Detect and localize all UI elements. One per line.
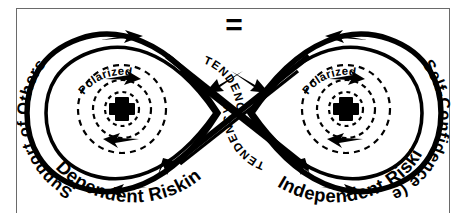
figure-frame: Support of Others Self-Confidence (ego) … [16, 8, 450, 213]
left-core-plus [109, 97, 135, 121]
right-core-plus [333, 97, 359, 121]
equals-symbol: = [225, 9, 243, 41]
figure-canvas: Support of Others Self-Confidence (ego) … [0, 0, 466, 213]
infinity-diagram: Support of Others Self-Confidence (ego) … [17, 9, 451, 213]
